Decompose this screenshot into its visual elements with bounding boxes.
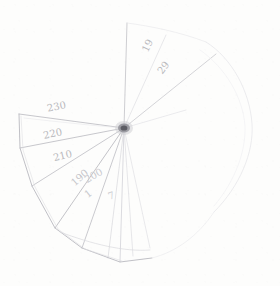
ray-right <box>124 110 186 128</box>
sketch-canvas: 19 29 230 220 210 190 200 1 7 <box>0 0 280 286</box>
hub-group <box>115 121 133 135</box>
inner-fold-left <box>24 118 124 128</box>
ray-left-1 <box>19 114 124 128</box>
hub-core <box>121 125 128 130</box>
outline-group <box>19 23 252 262</box>
outline-arc-right-inner <box>200 50 245 206</box>
pencil-drawing <box>0 0 280 286</box>
ray-group <box>19 23 216 262</box>
ray-down-3 <box>120 128 124 262</box>
fan-top-edge <box>127 23 206 42</box>
ray-top <box>124 23 127 128</box>
outline-arc-bottom <box>152 212 214 258</box>
